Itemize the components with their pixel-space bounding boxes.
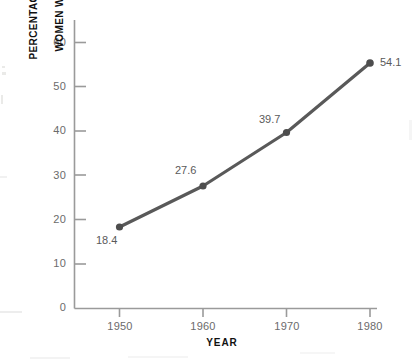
- data-point-1980: [366, 59, 374, 67]
- chart-figure: 60 50 40 30 20 10 0 1950 1960 1970 1980 …: [0, 0, 418, 363]
- scan-artifact: [30, 357, 70, 359]
- y-tick-label-10: 10: [36, 257, 66, 269]
- scan-artifact: [0, 311, 22, 313]
- scan-artifact: [409, 120, 412, 140]
- y-axis-title-line-1: PERCENTAGE OF WORKING: [27, 0, 40, 72]
- data-line-series-1: [120, 63, 371, 227]
- x-tick-label-1950: 1950: [95, 320, 145, 332]
- y-tick-label-30: 30: [36, 169, 66, 181]
- scan-artifact: [0, 176, 7, 178]
- y-tick-label-40: 40: [36, 124, 66, 136]
- x-axis-title: YEAR: [172, 337, 272, 348]
- scan-artifact: [1, 95, 3, 104]
- data-point-1950: [116, 223, 123, 230]
- scan-artifact: [128, 356, 188, 358]
- scan-artifact: [2, 66, 5, 68]
- data-label-1950: 18.4: [96, 234, 117, 246]
- data-label-1970: 39.7: [259, 113, 280, 125]
- scan-artifact: [300, 352, 335, 354]
- x-tick-label-1970: 1970: [262, 320, 312, 332]
- y-axis-title-line-2: WOMEN WITH CHILDREN: [53, 0, 66, 72]
- x-tick-label-1960: 1960: [178, 320, 228, 332]
- data-point-1960: [199, 182, 206, 189]
- data-point-1970: [283, 129, 290, 136]
- x-tick-label-1980: 1980: [345, 320, 395, 332]
- y-axis-ticks: [75, 43, 86, 265]
- scan-artifact: [2, 72, 6, 75]
- data-label-1960: 27.6: [175, 164, 196, 176]
- data-label-1980: 54.1: [380, 56, 401, 68]
- y-tick-label-50: 50: [36, 80, 66, 92]
- data-markers: [116, 59, 374, 230]
- y-axis-title: PERCENTAGE OF WORKING WOMEN WITH CHILDRE…: [14, 0, 79, 72]
- y-tick-label-0: 0: [36, 301, 66, 313]
- y-tick-label-20: 20: [36, 213, 66, 225]
- x-axis-ticks: [120, 309, 371, 317]
